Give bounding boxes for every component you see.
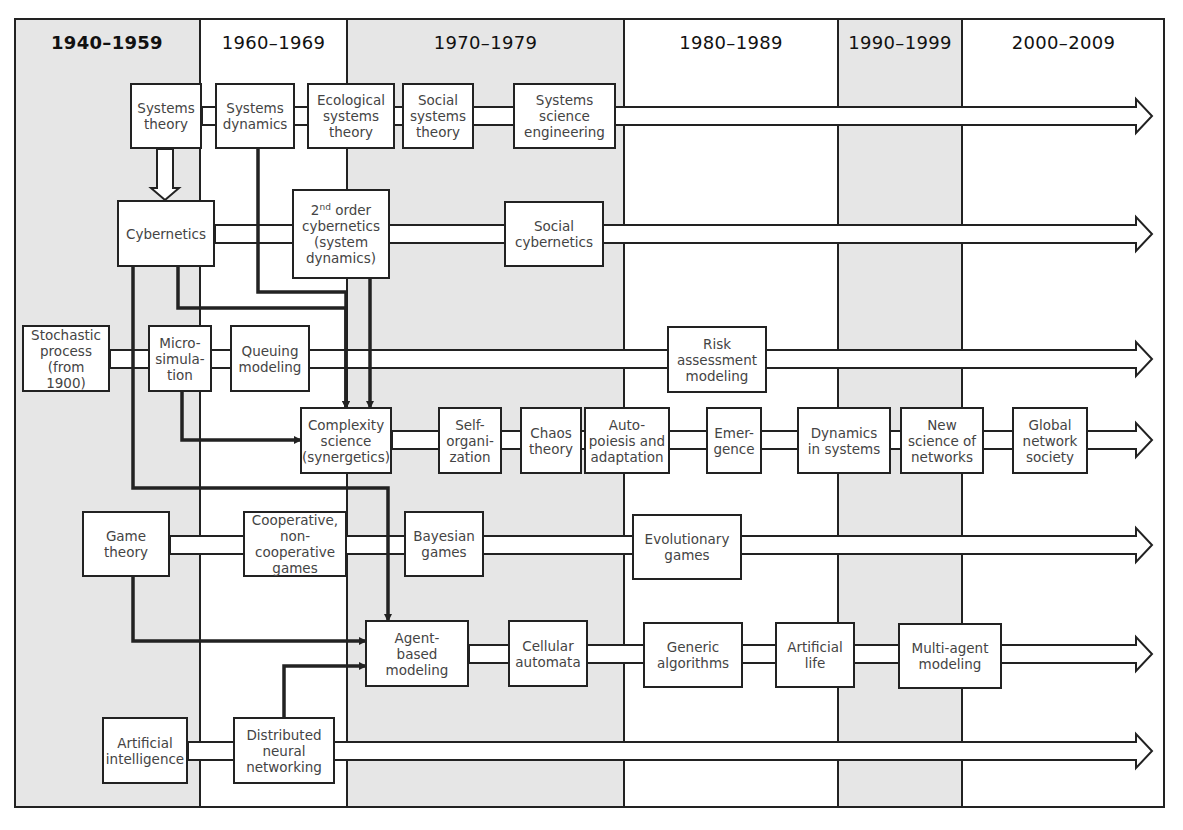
- node-dynamics-in-systems: Dynamics in systems: [797, 407, 891, 474]
- node-label: Multi-agent modeling: [912, 640, 989, 672]
- node-label: Complexity science (synergetics): [302, 417, 390, 465]
- microsim-to-complexity: [182, 392, 300, 440]
- node-label: Chaos theory: [529, 425, 573, 457]
- node-systems-dynamics: Systems dynamics: [215, 83, 295, 149]
- timeline-diagram: 1940–19591960–19691970–19791980–19891990…: [0, 0, 1183, 830]
- node-label: Cybernetics: [126, 226, 206, 242]
- node-label: Systems theory: [137, 100, 194, 132]
- node-queuing-modeling: Queuing modeling: [230, 325, 310, 392]
- node-cooperative-games: Cooperative, non-cooperative games: [243, 511, 347, 577]
- node-social-cybernetics: Social cybernetics: [504, 201, 604, 267]
- node-label: Dynamics in systems: [808, 425, 880, 457]
- node-label: Cooperative, non-cooperative games: [247, 512, 343, 576]
- node-label: Artificial intelligence: [106, 735, 184, 767]
- node-label: Artificial life: [787, 639, 843, 671]
- node-systems-theory: Systems theory: [130, 83, 202, 149]
- node-label: New science of networks: [908, 417, 976, 465]
- node-label: Game theory: [104, 528, 148, 560]
- node-ecological-systems-theory: Ecological systems theory: [307, 83, 395, 149]
- node-chaos-theory: Chaos theory: [520, 407, 582, 474]
- node-label: Distributed neural networking: [246, 727, 322, 775]
- node-label: Social cybernetics: [515, 218, 593, 250]
- node-autopoiesis-adaptation: Auto- poiesis and adaptation: [584, 407, 670, 474]
- node-distributed-neural-networking: Distributed neural networking: [233, 717, 335, 784]
- node-label: Systems science engineering: [524, 92, 605, 140]
- hollow-arrow-icon: [151, 149, 179, 200]
- node-complexity-science: Complexity science (synergetics): [300, 407, 392, 474]
- node-artificial-intelligence: Artificial intelligence: [102, 717, 188, 784]
- node-label: Agent- based modeling: [386, 630, 449, 678]
- node-label: Micro- simula- tion: [155, 335, 204, 383]
- dnn-to-agent: [284, 666, 365, 717]
- node-stochastic-process: Stochastic process (from 1900): [22, 325, 110, 392]
- node-label: Global network society: [1023, 417, 1078, 465]
- node-multi-agent-modeling: Multi-agent modeling: [898, 623, 1002, 689]
- node-artificial-life: Artificial life: [775, 622, 855, 688]
- node-generic-algorithms: Generic algorithms: [643, 622, 743, 688]
- node-micro-simulation: Micro- simula- tion: [148, 325, 212, 392]
- node-bayesian-games: Bayesian games: [404, 511, 484, 577]
- node-label: Auto- poiesis and adaptation: [589, 417, 665, 465]
- node-social-systems-theory: Social systems theory: [402, 83, 474, 149]
- node-second-order-cybernetics: 2nd order cybernetics (system dynamics): [292, 189, 390, 279]
- node-label: Queuing modeling: [239, 343, 302, 375]
- node-cellular-automata: Cellular automata: [508, 620, 588, 687]
- node-systems-science-engineering: Systems science engineering: [513, 83, 616, 149]
- node-label: Bayesian games: [413, 528, 474, 560]
- node-label: Cellular automata: [515, 638, 580, 670]
- node-agent-based-modeling: Agent- based modeling: [365, 620, 469, 687]
- node-risk-assessment-modeling: Risk assessment modeling: [667, 326, 767, 393]
- node-self-organization: Self- organi- zation: [438, 407, 502, 474]
- node-label: Systems dynamics: [223, 100, 288, 132]
- node-evolutionary-games: Evolutionary games: [632, 514, 742, 580]
- node-label: Evolutionary games: [645, 531, 730, 563]
- node-global-network-society: Global network society: [1012, 407, 1088, 474]
- node-cybernetics: Cybernetics: [117, 200, 215, 267]
- node-emergence: Emer- gence: [706, 407, 762, 474]
- node-label: Risk assessment modeling: [677, 336, 757, 384]
- node-label: Emer- gence: [713, 425, 754, 457]
- node-game-theory: Game theory: [82, 511, 170, 577]
- game-theory-to-agent: [133, 577, 365, 641]
- node-label: Stochastic process (from 1900): [26, 327, 106, 391]
- node-label: Self- organi- zation: [446, 417, 494, 465]
- node-label: 2nd order cybernetics (system dynamics): [302, 202, 380, 266]
- node-new-science-of-networks: New science of networks: [900, 407, 984, 474]
- node-label: Social systems theory: [410, 92, 466, 140]
- node-label: Ecological systems theory: [317, 92, 385, 140]
- node-label: Generic algorithms: [657, 639, 729, 671]
